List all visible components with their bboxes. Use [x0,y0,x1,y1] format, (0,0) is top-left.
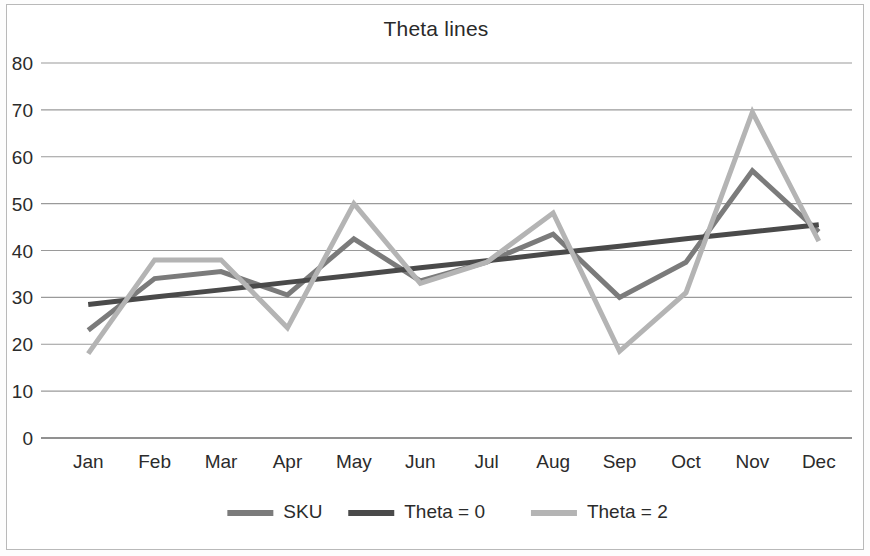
y-axis-tick-label: 60 [12,147,33,168]
y-axis-tick-labels: 01020304050607080 [12,53,33,449]
line-chart-plot: 01020304050607080 JanFebMarAprMayJunJulA… [7,5,865,551]
x-axis-tick-label: Sep [603,451,637,472]
x-axis-tick-label: Apr [273,451,303,472]
y-axis-tick-label: 30 [12,287,33,308]
x-axis-tick-label: Jul [475,451,499,472]
chart-page: Theta lines 01020304050607080 JanFebMarA… [0,0,870,556]
y-axis-tick-label: 70 [12,100,33,121]
x-axis-tick-label: May [336,451,372,472]
x-axis-tick-label: Aug [536,451,570,472]
x-axis-tick-label: Nov [735,451,769,472]
x-axis-tick-label: Jun [405,451,436,472]
chart-frame: Theta lines 01020304050607080 JanFebMarA… [6,4,864,550]
x-axis-tick-label: Dec [802,451,836,472]
y-axis-tick-label: 40 [12,241,33,262]
legend-label: Theta = 0 [404,501,485,522]
legend-label: SKU [283,501,322,522]
y-axis-tick-label: 0 [22,428,33,449]
legend-label: Theta = 2 [587,501,668,522]
y-axis-tick-label: 10 [12,381,33,402]
y-axis-tick-label: 20 [12,334,33,355]
gridlines-group [41,63,852,438]
data-series-group [88,112,819,353]
x-axis-tick-label: Oct [671,451,701,472]
y-axis-tick-label: 80 [12,53,33,74]
x-axis-tick-labels: JanFebMarAprMayJunJulAugSepOctNovDec [73,451,836,472]
chart-legend: SKUTheta = 0Theta = 2 [227,501,667,522]
x-axis-tick-label: Feb [138,451,171,472]
x-axis-tick-label: Jan [73,451,104,472]
y-axis-tick-label: 50 [12,194,33,215]
series-line-theta-2 [88,112,819,353]
x-axis-tick-label: Mar [205,451,238,472]
